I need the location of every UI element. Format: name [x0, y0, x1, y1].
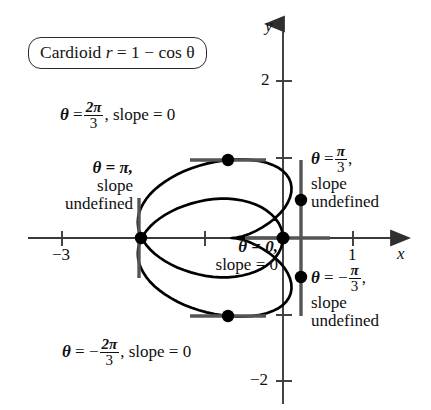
- fraction-denominator: 3: [84, 115, 104, 131]
- equals-sign: = −: [75, 342, 98, 361]
- theta-equation: θ = 0,: [150, 238, 278, 256]
- slope-undefined-word: undefined: [311, 312, 379, 330]
- y-tick-marks: [276, 81, 292, 381]
- slope-text: , slope = 0: [104, 105, 175, 124]
- fraction-denominator: 3: [335, 159, 347, 175]
- fraction-pi-3: π3: [349, 263, 361, 294]
- curve-expression: 1 − cos θ: [131, 42, 194, 62]
- fraction-2pi-3: 2π3: [100, 337, 120, 368]
- y-tick-label-minus2: −2: [250, 370, 268, 390]
- fraction-numerator: 2π: [84, 100, 104, 115]
- x-axis-label: x: [397, 244, 405, 264]
- equals-sign: =: [117, 42, 127, 62]
- annotation-theta-pi: θ = π, slope undefined: [0, 159, 133, 213]
- annotation-theta-pi-3: θ =π3, slope undefined: [311, 144, 379, 211]
- theta-symbol: θ: [62, 342, 71, 361]
- theta-equation: θ =π3,: [311, 144, 379, 175]
- x-tick-label-minus3: −3: [52, 245, 70, 265]
- theta-symbol: θ: [60, 105, 69, 124]
- comma: ,: [362, 268, 366, 287]
- annotation-theta-neg-2pi-3: θ = −2π3, slope = 0: [62, 337, 191, 368]
- fraction-2pi-3: 2π3: [84, 100, 104, 131]
- slope-undefined-word: undefined: [0, 195, 133, 213]
- equals-sign: =: [73, 105, 83, 124]
- point-theta-0: [277, 232, 290, 245]
- point-theta-2pi-3: [222, 154, 234, 166]
- point-theta-neg-pi-3: [295, 271, 307, 283]
- fraction-numerator: π: [335, 144, 347, 159]
- point-theta-neg-2pi-3: [222, 310, 234, 322]
- fraction-numerator: π: [349, 263, 361, 278]
- r-symbol: r: [106, 42, 113, 62]
- cardioid-figure: Cardioid r = 1 − cos θ −3 1 2 −2 x y θ =…: [0, 0, 431, 410]
- annotation-theta-2pi-3: θ =2π3, slope = 0: [60, 100, 175, 131]
- comma: ,: [348, 149, 352, 168]
- theta-symbol: θ: [311, 149, 320, 168]
- annotation-theta-neg-pi-3: θ = −π3, slope undefined: [311, 263, 379, 330]
- slope-word: slope: [311, 294, 379, 312]
- curve-name: Cardioid: [40, 42, 101, 62]
- theta-value-text: θ = π,: [92, 158, 133, 177]
- theta-equation: θ = π,: [0, 159, 133, 177]
- fraction-numerator: 2π: [100, 337, 120, 352]
- point-theta-pi: [135, 232, 147, 244]
- slope-word: slope: [0, 177, 133, 195]
- theta-equation: θ = −π3,: [311, 263, 379, 294]
- theta-symbol: θ: [311, 268, 320, 287]
- y-axis-label: y: [265, 16, 273, 36]
- slope-undefined-word: undefined: [311, 193, 379, 211]
- equals-sign: = −: [324, 268, 347, 287]
- curve-title-box: Cardioid r = 1 − cos θ: [28, 37, 207, 69]
- fraction-pi-3: π3: [335, 144, 347, 175]
- slope-word: slope: [311, 175, 379, 193]
- theta-value-text: θ = 0,: [238, 237, 278, 256]
- y-tick-label-2: 2: [261, 70, 270, 90]
- slope-equation: slope = 0: [150, 256, 278, 274]
- fraction-denominator: 3: [349, 278, 361, 294]
- point-theta-pi-3: [295, 194, 307, 206]
- equals-sign: =: [324, 149, 334, 168]
- fraction-denominator: 3: [100, 352, 120, 368]
- annotation-theta-0: θ = 0, slope = 0: [150, 238, 278, 274]
- slope-text: , slope = 0: [120, 342, 191, 361]
